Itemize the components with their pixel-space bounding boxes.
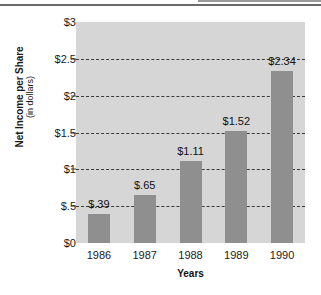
x-axis-tick-label: 1988 <box>178 250 202 261</box>
y-axis-tick-label: $.5 <box>22 201 76 212</box>
y-axis-tick-label: $3 <box>22 17 76 28</box>
bar-value-label: $.39 <box>88 199 109 210</box>
y-axis-tick-label: $2.5 <box>22 53 76 64</box>
x-axis-tick-label: 1990 <box>270 250 294 261</box>
bar-value-label: $2.34 <box>268 56 296 67</box>
bar <box>134 195 156 243</box>
bar <box>225 131 247 243</box>
bar-value-label: $1.52 <box>223 116 251 127</box>
y-axis-tick-label: $0 <box>22 238 76 249</box>
x-axis-tick-label: 1986 <box>87 250 111 261</box>
bar <box>271 71 293 243</box>
y-axis: $3$2.5$2$1.5$1$.5$0 <box>14 22 76 243</box>
page-rule-divider-secondary <box>198 0 321 2</box>
y-axis-tick-label: $1 <box>22 164 76 175</box>
x-axis-tick-label: 1989 <box>224 250 248 261</box>
y-axis-tick-label: $2 <box>22 90 76 101</box>
page-rule-divider <box>0 4 321 6</box>
bar <box>180 161 202 243</box>
bar-chart-figure: Net Income per Share (in dollars) $3$2.5… <box>0 0 321 295</box>
y-axis-tick-label: $1.5 <box>22 127 76 138</box>
x-axis-title: Years <box>76 268 305 279</box>
bar <box>88 214 110 243</box>
x-axis-tick-label: 1987 <box>132 250 156 261</box>
bar-value-label: $1.11 <box>177 146 204 157</box>
bar-value-label: $.65 <box>134 180 155 191</box>
